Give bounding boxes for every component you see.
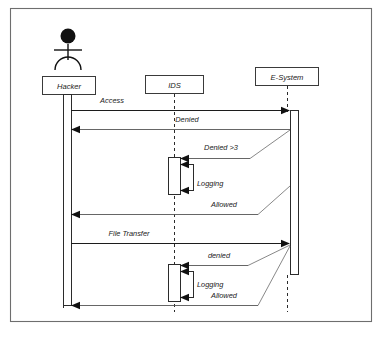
actor-head-icon bbox=[61, 29, 76, 44]
activation-bar-hacker bbox=[64, 95, 72, 306]
message-label-file-transfer: File Transfer bbox=[109, 229, 150, 238]
activation-bar-ids-second-nested bbox=[181, 272, 194, 298]
lifeline-header-hacker[interactable]: Hacker bbox=[43, 77, 96, 95]
message-label-denied-lower: denied bbox=[208, 251, 231, 260]
message-label-denied: Denied bbox=[175, 115, 199, 124]
lifeline-label-esystem: E-System bbox=[271, 73, 304, 82]
message-label-logging-second: Logging bbox=[197, 280, 224, 289]
message-label-allowed-second: Allowed bbox=[210, 291, 238, 300]
lifeline-label-hacker: Hacker bbox=[57, 82, 82, 91]
message-label-logging-first: Logging bbox=[197, 179, 224, 188]
sequence-diagram-canvas: Hacker IDS E-System Access bbox=[0, 0, 391, 340]
lifeline-header-esystem[interactable]: E-System bbox=[256, 68, 319, 86]
activation-bar-ids-second bbox=[169, 265, 181, 302]
lifeline-header-ids[interactable]: IDS bbox=[146, 76, 204, 94]
activation-bar-ids-first bbox=[169, 158, 181, 195]
message-label-allowed-first: Allowed bbox=[210, 200, 238, 209]
activation-bar-esystem bbox=[291, 111, 299, 275]
activation-bar-ids-first-nested bbox=[181, 165, 194, 191]
message-label-denied-gt3: Denied >3 bbox=[204, 143, 239, 152]
message-label-access: Access bbox=[99, 96, 124, 105]
lifeline-label-ids: IDS bbox=[168, 81, 181, 90]
